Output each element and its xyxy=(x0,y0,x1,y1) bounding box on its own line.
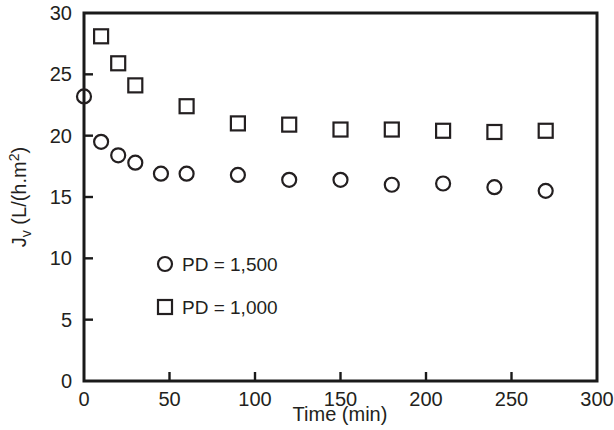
x-tick-label: 100 xyxy=(238,388,271,410)
data-point xyxy=(94,29,108,43)
x-axis-title: Time (min) xyxy=(293,403,388,425)
data-point xyxy=(231,116,245,130)
y-tick-label: 15 xyxy=(50,186,72,208)
y-tick-label: 30 xyxy=(50,2,72,24)
y-axis-tick-labels: 051015202530 xyxy=(50,2,72,392)
data-point xyxy=(128,156,142,170)
series-pd-1500-markers xyxy=(77,89,553,197)
x-tick-label: 50 xyxy=(158,388,180,410)
legend-marker-square xyxy=(158,300,172,314)
data-point xyxy=(94,135,108,149)
data-point xyxy=(334,123,348,137)
axis-tick-marks xyxy=(84,74,512,381)
x-tick-label: 200 xyxy=(409,388,442,410)
y-tick-label: 20 xyxy=(50,125,72,147)
data-point xyxy=(385,123,399,137)
data-point xyxy=(334,173,348,187)
x-tick-label: 250 xyxy=(495,388,528,410)
legend-label-pd-1500: PD = 1,500 xyxy=(182,254,278,275)
x-tick-label: 0 xyxy=(78,388,89,410)
chart-figure: 051015202530 050100150200250300 Time (mi… xyxy=(0,0,614,430)
data-point xyxy=(111,56,125,70)
data-point xyxy=(180,99,194,113)
data-point xyxy=(539,184,553,198)
data-point xyxy=(111,148,125,162)
plot-frame xyxy=(84,13,597,381)
legend: PD = 1,500 PD = 1,000 xyxy=(158,254,278,318)
y-tick-label: 25 xyxy=(50,63,72,85)
legend-label-pd-1000: PD = 1,000 xyxy=(182,297,278,318)
legend-marker-circle xyxy=(158,257,172,271)
data-point xyxy=(436,124,450,138)
data-point xyxy=(180,167,194,181)
x-tick-label: 300 xyxy=(580,388,613,410)
series-pd-1000-markers xyxy=(94,29,553,139)
data-point xyxy=(487,125,501,139)
data-point xyxy=(487,180,501,194)
data-point xyxy=(282,173,296,187)
data-point xyxy=(385,178,399,192)
scatter-plot: 051015202530 050100150200250300 Time (mi… xyxy=(0,0,614,430)
data-point xyxy=(436,177,450,191)
data-point xyxy=(128,78,142,92)
y-tick-label: 0 xyxy=(61,370,72,392)
data-point xyxy=(539,124,553,138)
y-tick-label: 5 xyxy=(61,309,72,331)
y-tick-label: 10 xyxy=(50,247,72,269)
y-axis-title: Jv (L/(h.m2) xyxy=(6,147,34,247)
data-point xyxy=(231,168,245,182)
data-point xyxy=(282,118,296,132)
data-point xyxy=(154,167,168,181)
